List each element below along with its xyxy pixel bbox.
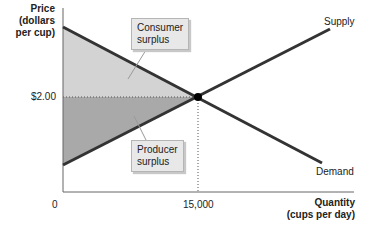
x-axis-title: Quantity (cups per day) — [280, 197, 355, 221]
y-axis-title-line: per cup) — [5, 27, 55, 39]
callout-text: Consumer — [137, 22, 183, 34]
y-tick-label: $2.00 — [22, 91, 56, 102]
demand-label: Demand — [316, 166, 354, 177]
equilibrium-point — [194, 93, 202, 101]
callout-text: Producer — [137, 144, 178, 156]
x-tick-label: 15,000 — [183, 199, 214, 210]
origin-label: 0 — [52, 199, 58, 210]
x-axis-title-line: Quantity — [280, 197, 355, 209]
callout-text: surplus — [137, 156, 178, 168]
consumer-surplus-callout: Consumer surplus — [131, 18, 189, 50]
x-axis-title-line: (cups per day) — [280, 209, 355, 221]
y-axis-title: Price (dollars per cup) — [5, 3, 55, 39]
y-axis-title-line: (dollars — [5, 15, 55, 27]
callout-text: surplus — [137, 34, 183, 46]
supply-label: Supply — [324, 16, 355, 27]
producer-surplus-callout: Producer surplus — [131, 140, 184, 172]
y-axis-title-line: Price — [5, 3, 55, 15]
